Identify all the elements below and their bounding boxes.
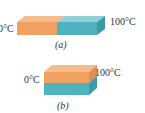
- bar-a-front-cold: [57, 22, 97, 35]
- label-a-left-temp: 0°C: [0, 24, 14, 34]
- block-b-top: [44, 65, 97, 72]
- bar-a-front-hot: [17, 22, 57, 35]
- caption-b: (b): [57, 101, 69, 111]
- bar-a-top-hot: [17, 16, 65, 22]
- label-a-right-temp: 100°C: [110, 17, 136, 27]
- bar-a-top-cold: [57, 16, 105, 22]
- label-b-right-temp: 100°C: [95, 68, 121, 78]
- bar-a: [17, 16, 105, 35]
- block-b-front-hot: [44, 72, 89, 83]
- label-b-left-temp: 0°C: [24, 75, 40, 85]
- caption-a: (a): [55, 40, 67, 50]
- block-b-front-cold: [44, 83, 89, 95]
- block-b: [44, 65, 97, 95]
